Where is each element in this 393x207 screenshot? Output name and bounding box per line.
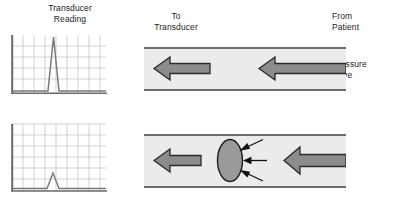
tube-top-svg [144,49,346,88]
bubble-compression-arrows [242,140,268,182]
from-patient-label: From Patient [332,11,390,32]
pressure-wave-arrow [284,147,346,174]
tubing-undamped-contents [144,49,346,89]
bubble-compression-arrow-bottom-head [242,171,250,177]
tubing-with-air-bubble [144,134,346,188]
air-bubble [218,140,243,182]
bubble-compression-arrow-top-head [242,144,250,150]
to-transducer-label: To Transducer [143,11,209,32]
chart-top-svg [11,35,107,95]
chart-transducer-reading-undamped [11,35,107,95]
pressure-wave-arrow-right [259,57,346,80]
chart-bottom-svg [11,122,107,194]
tube-bottom-svg [144,136,346,185]
grid-lines [12,124,106,191]
pressure-wave-arrow-left [154,57,210,80]
chart-transducer-reading-damped [11,122,107,194]
attenuated-wave-arrow [154,149,201,172]
bubble-compression-arrow-middle-head [245,158,251,163]
tubing-undamped [144,47,346,91]
chart-axes [11,124,107,191]
pressure-trace-damped [13,173,107,189]
diagram-canvas: Transducer Reading To Transducer From Pa… [0,0,393,207]
pressure-trace-undamped [13,37,107,91]
tubing-damped-contents [144,136,346,186]
chart-title: Transducer Reading [24,3,116,24]
